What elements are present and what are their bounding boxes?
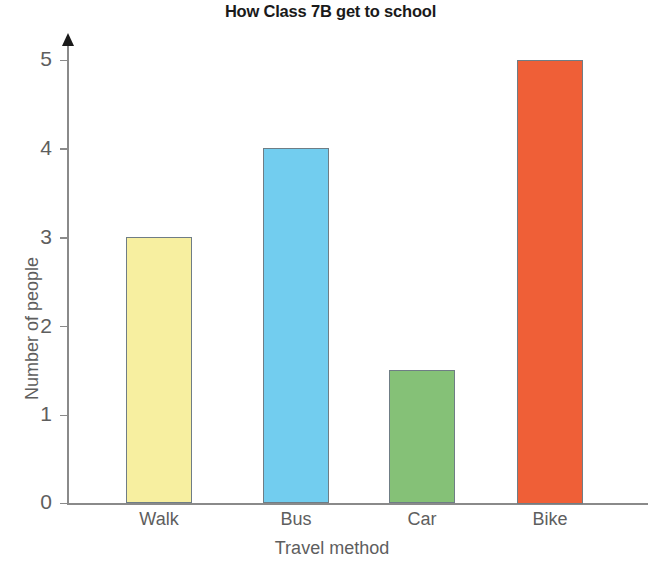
x-tick-label-walk: Walk xyxy=(99,509,219,530)
x-tick-label-bus: Bus xyxy=(236,509,356,530)
bar-bike[interactable] xyxy=(517,60,583,504)
bar-chart: How Class 7B get to school 5 4 3 2 1 0 N… xyxy=(0,0,661,572)
x-tick-label-car: Car xyxy=(362,509,482,530)
x-axis-title: Travel method xyxy=(67,538,597,559)
y-tick-mark-2 xyxy=(60,326,68,328)
y-tick-label-3: 3 xyxy=(4,226,52,247)
y-tick-label-4: 4 xyxy=(4,137,52,158)
y-tick-mark-1 xyxy=(60,415,68,417)
bar-walk[interactable] xyxy=(126,237,192,503)
x-tick-label-bike: Bike xyxy=(490,509,610,530)
y-tick-mark-3 xyxy=(60,237,68,239)
y-axis-arrow-icon xyxy=(62,33,74,46)
bar-car[interactable] xyxy=(389,370,455,503)
y-tick-label-5: 5 xyxy=(4,48,52,69)
y-tick-mark-5 xyxy=(60,60,68,62)
y-axis-title: Number of people xyxy=(22,257,43,400)
plot-area: 5 4 3 2 1 0 Number of people Walk Bus Ca… xyxy=(0,0,661,572)
y-axis-line xyxy=(67,44,69,504)
y-tick-label-1: 1 xyxy=(4,403,52,424)
y-tick-mark-4 xyxy=(60,148,68,150)
bar-bus[interactable] xyxy=(263,148,329,503)
y-tick-label-0: 0 xyxy=(4,491,52,512)
y-tick-mark-0 xyxy=(60,503,68,505)
